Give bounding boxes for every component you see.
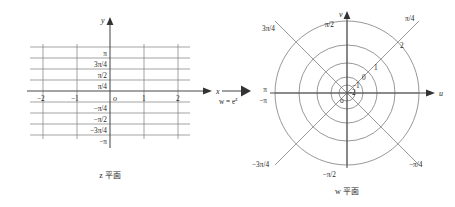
x-tick-label-neg2: −2: [37, 94, 45, 103]
x-tick-label-1: 1: [142, 94, 146, 103]
z-plane-y-axis: [107, 17, 114, 148]
radius-label-2: 2: [400, 41, 404, 50]
mapping-label-text: w = e: [219, 97, 235, 106]
w-plane-caption: w 平面: [335, 187, 359, 196]
u-axis-label: u: [439, 89, 443, 98]
v-axis-arrow-icon: [344, 11, 351, 19]
z-plane-panel: x y o −2 −1 1 2 π 3π/4 π/2 π/4 −π/4 −π/2…: [27, 16, 220, 180]
mapping-label: w = ez: [219, 96, 238, 106]
right-arrow-icon: [241, 86, 251, 97]
y-tick-label-pi: π: [103, 49, 107, 58]
ray-ext-neg-3pi4: [275, 152, 288, 165]
ray-ext-3pi4: [275, 21, 288, 34]
y-tick-label-3pi4: 3π/4: [94, 60, 107, 69]
radius-label-0: 0: [362, 73, 366, 82]
radius-label-neg2: −2: [348, 88, 356, 97]
origin-label-z: o: [113, 94, 117, 103]
angle-label-neg-pi4: −π/4: [409, 160, 423, 169]
y-tick-label-pi4: π/4: [98, 82, 108, 91]
mapping-arrow-group: w = ez: [219, 86, 251, 107]
angle-label-neg-pi2: −π/2: [323, 170, 337, 179]
y-tick-label-neg-pi2: −π/2: [94, 115, 108, 124]
y-tick-label-neg-pi: −π: [99, 137, 107, 146]
y-axis-label: y: [100, 16, 105, 25]
origin-label-w: o: [340, 96, 344, 105]
angle-label-pi: π: [263, 85, 267, 94]
y-tick-label-pi2: π/2: [98, 71, 108, 80]
x-axis-arrow-icon: [203, 88, 212, 95]
figure-svg: x y o −2 −1 1 2 π 3π/4 π/2 π/4 −π/4 −π/2…: [0, 0, 455, 207]
z-plane-caption: z 平面: [99, 171, 121, 180]
x-axis-label: x: [215, 87, 220, 96]
angle-label-3pi4: 3π/4: [262, 24, 275, 33]
v-axis-label: v: [339, 10, 343, 19]
angle-label-neg-pi: −π: [259, 96, 267, 105]
conformal-mapping-figure: x y o −2 −1 1 2 π 3π/4 π/2 π/4 −π/4 −π/2…: [0, 0, 455, 207]
angle-label-pi4: π/4: [405, 14, 415, 23]
angle-label-neg-3pi4: −3π/4: [252, 160, 269, 169]
angle-label-pi2: π/2: [325, 20, 335, 29]
u-axis-arrow-icon: [426, 90, 435, 97]
x-tick-label-2: 2: [176, 94, 180, 103]
w-plane-panel: u v o π/4 π/2 3π/4 π −π −3π/4 −π/2 −π/4 …: [252, 10, 443, 196]
x-tick-label-neg1: −1: [71, 94, 79, 103]
mapping-label-exponent: z: [235, 96, 238, 102]
y-axis-arrow-icon: [107, 17, 114, 25]
y-tick-label-neg-3pi4: −3π/4: [90, 126, 107, 135]
radius-label-1: 1: [374, 63, 378, 72]
z-plane-x-axis: [27, 88, 212, 95]
y-tick-label-neg-pi4: −π/4: [94, 104, 108, 113]
